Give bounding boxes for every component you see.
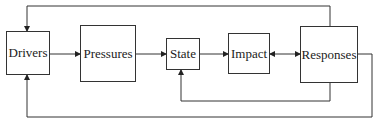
node-label: Responses: [302, 47, 357, 63]
node-responses: Responses: [300, 26, 358, 83]
arrow-responses-drivers-top: [27, 6, 330, 31]
node-label: Impact: [231, 46, 267, 62]
node-label: Drivers: [9, 45, 48, 61]
node-label: Pressures: [83, 46, 132, 62]
node-drivers: Drivers: [6, 31, 50, 75]
node-pressures: Pressures: [80, 25, 136, 82]
node-impact: Impact: [228, 33, 270, 74]
node-state: State: [166, 38, 200, 70]
node-label: State: [170, 46, 196, 62]
